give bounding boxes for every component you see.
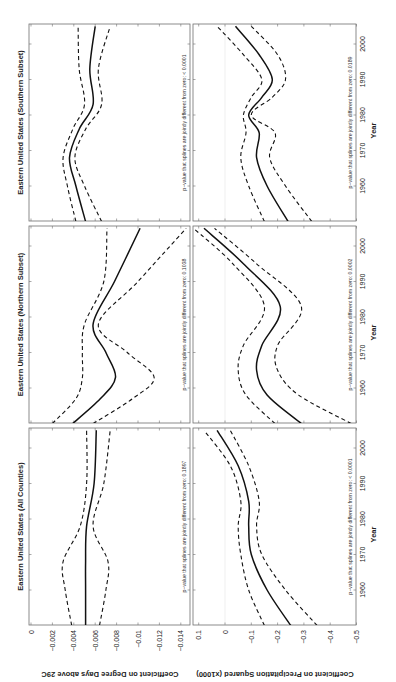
precip-tick-label: −0.4 [327, 630, 334, 644]
panel-title: Eastern United States (Northern Subset) [16, 252, 25, 396]
dd-tick-label: −0.006 [92, 630, 99, 652]
panel-title: Eastern United States (All Counties) [16, 462, 25, 591]
subplot-northern-dd: p−value that splines are jointly differe… [29, 226, 190, 424]
precip-tick-label: −0.2 [274, 630, 281, 644]
plot-frame [29, 428, 190, 625]
precip-tick-label: −0.5 [353, 630, 360, 644]
precip-tick-label: −0.1 [248, 630, 255, 644]
year-tick-label: 1990 [359, 476, 366, 492]
figure: p−value that splines are jointly differe… [0, 0, 396, 682]
dd-tick-label: −0.008 [113, 630, 120, 652]
subplot-all-counties-precip: p−value that splines are jointly differe… [193, 428, 357, 626]
subplot-all-counties-dd: p−value that splines are jointly differe… [29, 428, 190, 626]
year-tick-label: 2000 [359, 238, 366, 254]
dd-axis-label: Coefficient on Degree Days above 29C [41, 670, 179, 679]
precip-tick-label: 0 [222, 630, 229, 634]
dd-tick-label: −0.01 [135, 630, 142, 648]
p-value-annotation: p−value that splines are jointly differe… [347, 458, 353, 594]
year-tick-label: 1960 [359, 178, 366, 194]
dd-tick-label: −0.014 [177, 630, 184, 652]
p-value-annotation: p−value that splines are jointly differe… [181, 54, 187, 190]
panels-group: p−value that splines are jointly differe… [29, 24, 357, 626]
year-tick-label: 1980 [359, 107, 366, 123]
year-tick-label: 1990 [359, 72, 366, 88]
plot-frame [193, 428, 356, 625]
x-axis-label: Year [369, 526, 378, 542]
dd-tick-label: −0.012 [156, 630, 163, 652]
year-tick-label: 1980 [359, 511, 366, 527]
precip-tick-label: 0.1 [195, 630, 202, 640]
year-tick-label: 1970 [359, 143, 366, 159]
year-tick-label: 1960 [359, 380, 366, 396]
year-tick-label: 1970 [359, 345, 366, 361]
p-value-annotation: p−value that splines are jointly differe… [181, 258, 187, 390]
p-value-annotation: p−value that splines are jointly differe… [347, 56, 353, 188]
plot-frame [29, 24, 190, 221]
precip-axis-label: Coefficient on Precipitation Squared (x1… [196, 670, 354, 679]
precip-tick-label: −0.3 [300, 630, 307, 644]
dd-tick-label: −0.002 [49, 630, 56, 652]
year-tick-label: 2000 [359, 440, 366, 456]
plot-frame [29, 226, 190, 423]
p-value-annotation: p−value that splines are jointly differe… [347, 258, 353, 390]
dd-tick-label: −0.004 [70, 630, 77, 652]
x-axis-label: Year [369, 122, 378, 138]
x-axis-label: Year [369, 324, 378, 340]
plot-frame [193, 24, 356, 221]
year-tick-label: 1970 [359, 547, 366, 563]
year-tick-label: 1980 [359, 309, 366, 325]
year-tick-label: 2000 [359, 36, 366, 52]
panel-title: Eastern United States (Southern Subset) [16, 50, 25, 195]
subplot-southern-dd: p−value that splines are jointly differe… [29, 24, 190, 222]
subplot-southern-precip: p−value that splines are jointly differe… [193, 24, 357, 222]
p-value-annotation: p−value that splines are jointly differe… [181, 460, 187, 592]
dd-tick-label: 0 [28, 630, 35, 634]
year-tick-label: 1960 [359, 582, 366, 598]
year-tick-label: 1990 [359, 274, 366, 290]
subplot-northern-precip: p−value that splines are jointly differe… [193, 226, 357, 424]
